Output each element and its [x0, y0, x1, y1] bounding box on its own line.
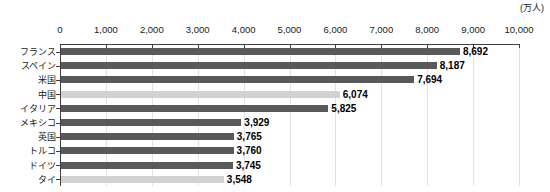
category-label: 米国 [0, 75, 56, 85]
x-axis-tick-label: 0 [57, 24, 62, 36]
bar-value-label: 3,760 [237, 145, 262, 156]
bar [61, 176, 224, 183]
gridline [519, 44, 520, 186]
x-axis-tick-label: 8,000 [415, 24, 439, 36]
x-axis-tick-label: 4,000 [232, 24, 256, 36]
y-axis-tick [56, 66, 60, 67]
bar-value-label: 3,765 [237, 131, 262, 142]
x-axis-tick [519, 44, 520, 48]
bar-value-label: 3,745 [236, 160, 261, 171]
bar-value-label: 7,694 [417, 74, 442, 85]
x-axis-tick-label: 9,000 [461, 24, 485, 36]
x-axis-tick-label: 6,000 [324, 24, 348, 36]
y-axis-tick [56, 108, 60, 109]
category-label: メキシコ [0, 118, 56, 128]
bar [61, 62, 437, 69]
category-label: トルコ [0, 146, 56, 156]
x-axis-tick-label: 7,000 [369, 24, 393, 36]
bar-chart: (万人) 01,0002,0003,0004,0005,0006,0007,00… [0, 0, 550, 192]
bar [61, 133, 234, 140]
bar-value-label: 3,929 [244, 117, 269, 128]
bar [61, 162, 233, 169]
y-axis-tick [56, 80, 60, 81]
category-label: イタリア [0, 104, 56, 114]
x-axis-tick-label: 5,000 [278, 24, 302, 36]
bar-value-label: 6,074 [343, 89, 368, 100]
x-axis-tick-label: 10,000 [504, 24, 533, 36]
bar [61, 76, 414, 83]
x-axis-tick-label: 1,000 [94, 24, 118, 36]
bar [61, 147, 234, 154]
bar [61, 119, 241, 126]
x-axis-tick-label: 3,000 [186, 24, 210, 36]
y-axis-tick [56, 94, 60, 95]
bar [61, 48, 460, 55]
bar-value-label: 8,187 [440, 60, 465, 71]
y-axis-tick [56, 165, 60, 166]
y-axis-tick [56, 52, 60, 53]
bar [61, 105, 328, 112]
category-label: ドイツ [0, 161, 56, 171]
y-axis-tick [56, 137, 60, 138]
unit-label: (万人) [520, 2, 544, 14]
category-label: フランス [0, 47, 56, 57]
category-label: スペイン [0, 61, 56, 71]
x-axis-tick-label: 2,000 [140, 24, 164, 36]
bar [61, 91, 340, 98]
bar-value-label: 8,692 [463, 46, 488, 57]
category-label: 中国 [0, 90, 56, 100]
y-axis-tick [56, 151, 60, 152]
bar-value-label: 5,825 [331, 103, 356, 114]
gridline [473, 44, 474, 186]
bar-value-label: 3,548 [227, 174, 252, 185]
y-axis-tick [56, 179, 60, 180]
category-label: 英国 [0, 132, 56, 142]
y-axis-tick [56, 123, 60, 124]
category-label: タイ [0, 175, 56, 185]
